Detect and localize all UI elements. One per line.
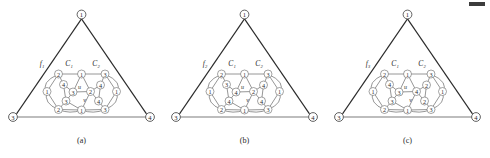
vertex-u-node: 3 bbox=[395, 88, 403, 96]
vertex-left-outer: 1 bbox=[369, 88, 377, 96]
vertex-label: 2 bbox=[220, 106, 223, 113]
vertex-bottom-center: 1 bbox=[404, 106, 412, 114]
cycle-label-c2: C₂ bbox=[418, 59, 426, 68]
panel-caption: (a) bbox=[77, 136, 86, 145]
vertex-top-right: 3 bbox=[264, 70, 272, 78]
vertex-label: 2 bbox=[89, 88, 92, 95]
vertex-upper-left-in: 3 bbox=[223, 81, 231, 89]
vertex-label: 3 bbox=[64, 98, 67, 105]
vertex-v-node: 2 bbox=[87, 88, 95, 96]
vertex-bottom-right-in: 3 bbox=[101, 106, 109, 114]
face-label: f₂ bbox=[203, 59, 208, 68]
label-v: v bbox=[409, 97, 412, 103]
corner-bottom-right: 4 bbox=[309, 113, 318, 122]
vertex-lower-right-in: 2 bbox=[421, 97, 429, 105]
panel-b-drawing: 21331424144213134f₂C₁C₂uv(b) bbox=[163, 0, 326, 158]
vertex-bottom-center: 1 bbox=[241, 106, 249, 114]
vertex-label: 1 bbox=[80, 107, 83, 114]
vertex-top-center: 1 bbox=[78, 70, 86, 78]
face-label: f₃ bbox=[366, 59, 371, 68]
vertex-label: 4 bbox=[99, 82, 102, 89]
vertex-bottom-left-in: 2 bbox=[55, 106, 63, 114]
vertex-label: 1 bbox=[406, 71, 409, 78]
vertex-upper-right-in: 4 bbox=[260, 81, 268, 89]
vertex-label: 4 bbox=[260, 98, 263, 105]
vertex-label: 2 bbox=[423, 98, 426, 105]
vertex-upper-right-in: 2 bbox=[423, 81, 431, 89]
vertex-left-outer: 1 bbox=[43, 88, 51, 96]
vertex-label: 3 bbox=[103, 71, 106, 78]
vertex-label: 3 bbox=[71, 89, 74, 96]
vertex-label: 1 bbox=[208, 88, 211, 95]
vertex-lower-left-in: 3 bbox=[62, 97, 70, 105]
vertex-label: 1 bbox=[278, 88, 281, 95]
vertex-v-node: 4 bbox=[413, 88, 421, 96]
cycle-label-c1: C₁ bbox=[228, 59, 236, 68]
label-u: u bbox=[78, 84, 81, 90]
corner-bottom-left: 3 bbox=[172, 113, 181, 122]
panel-c: 21341342132213134f₃C₁C₂uv(c) bbox=[326, 0, 489, 158]
label-v: v bbox=[246, 97, 249, 103]
vertex-label: 4 bbox=[388, 81, 391, 88]
vertex-label: 4 bbox=[227, 98, 230, 105]
vertex-label: 2 bbox=[425, 82, 428, 89]
vertex-label: 1 bbox=[371, 88, 374, 95]
vertex-v-node: 2 bbox=[250, 88, 258, 96]
vertex-top-center: 1 bbox=[241, 70, 249, 78]
face-label: f₁ bbox=[40, 59, 45, 68]
corner-apex: 1 bbox=[240, 10, 249, 19]
vertex-label: 3 bbox=[429, 106, 432, 113]
vertex-label: 3 bbox=[429, 71, 432, 78]
vertex-label: 3 bbox=[103, 106, 106, 113]
vertex-label: 2 bbox=[252, 88, 255, 95]
vertex-label: 3 bbox=[266, 106, 269, 113]
vertex-left-outer: 1 bbox=[206, 88, 214, 96]
vertex-right-outer: 1 bbox=[276, 88, 284, 96]
corner-vertices: 134 bbox=[9, 10, 155, 121]
outer-triangle bbox=[180, 19, 310, 117]
vertex-lower-left-in: 4 bbox=[225, 97, 233, 105]
vertex-label: 4 bbox=[97, 98, 100, 105]
vertex-lower-left-in: 3 bbox=[388, 97, 396, 105]
vertex-label: 4 bbox=[62, 81, 65, 88]
vertex-bottom-right-in: 3 bbox=[264, 106, 272, 114]
panel-caption: (b) bbox=[240, 136, 250, 145]
vertex-label: 4 bbox=[415, 88, 418, 95]
vertex-label: 2 bbox=[383, 106, 386, 113]
vertex-upper-left-in: 4 bbox=[60, 81, 68, 89]
corner-bottom-left: 3 bbox=[9, 113, 18, 122]
outer-triangle bbox=[17, 19, 147, 117]
corner-apex: 1 bbox=[77, 10, 86, 19]
panel-a: 21341324134213134f₁C₁C₂uv(a) bbox=[0, 0, 163, 158]
corner-apex: 1 bbox=[403, 10, 412, 19]
vertex-label: 4 bbox=[262, 82, 265, 89]
corner-vertices: 134 bbox=[335, 10, 481, 121]
vertex-bottom-left-in: 2 bbox=[218, 106, 226, 114]
vertex-label: 3 bbox=[390, 98, 393, 105]
vertex-right-outer: 1 bbox=[113, 88, 121, 96]
vertex-label: 1 bbox=[80, 71, 83, 78]
vertex-label: 3 bbox=[397, 89, 400, 96]
vertex-upper-left-in: 4 bbox=[386, 81, 394, 89]
corner-label: 1 bbox=[243, 11, 246, 18]
vertex-top-left: 2 bbox=[218, 70, 226, 78]
vertex-label: 1 bbox=[441, 88, 444, 95]
panel-a-drawing: 21341324134213134f₁C₁C₂uv(a) bbox=[0, 0, 163, 158]
vertex-label: 3 bbox=[266, 71, 269, 78]
vertex-upper-right-in: 4 bbox=[97, 81, 105, 89]
cycle-label-c1: C₁ bbox=[65, 59, 73, 68]
figure-three-panel-graphs: 21341324134213134f₁C₁C₂uv(a) 21331424144… bbox=[0, 0, 490, 158]
vertex-u-node: 3 bbox=[69, 88, 77, 96]
vertex-u-node: 4 bbox=[232, 88, 240, 96]
panel-caption: (c) bbox=[403, 136, 412, 145]
vertex-top-left: 2 bbox=[381, 70, 389, 78]
label-u: u bbox=[404, 84, 407, 90]
outer-triangle bbox=[343, 19, 473, 117]
vertex-top-center: 1 bbox=[404, 70, 412, 78]
corner-bottom-right: 4 bbox=[146, 113, 155, 122]
vertex-label: 4 bbox=[234, 89, 237, 96]
panel-b: 21331424144213134f₂C₁C₂uv(b) bbox=[163, 0, 326, 158]
corner-bottom-right: 4 bbox=[472, 113, 481, 122]
vertex-label: 1 bbox=[243, 71, 246, 78]
vertex-label: 1 bbox=[45, 88, 48, 95]
